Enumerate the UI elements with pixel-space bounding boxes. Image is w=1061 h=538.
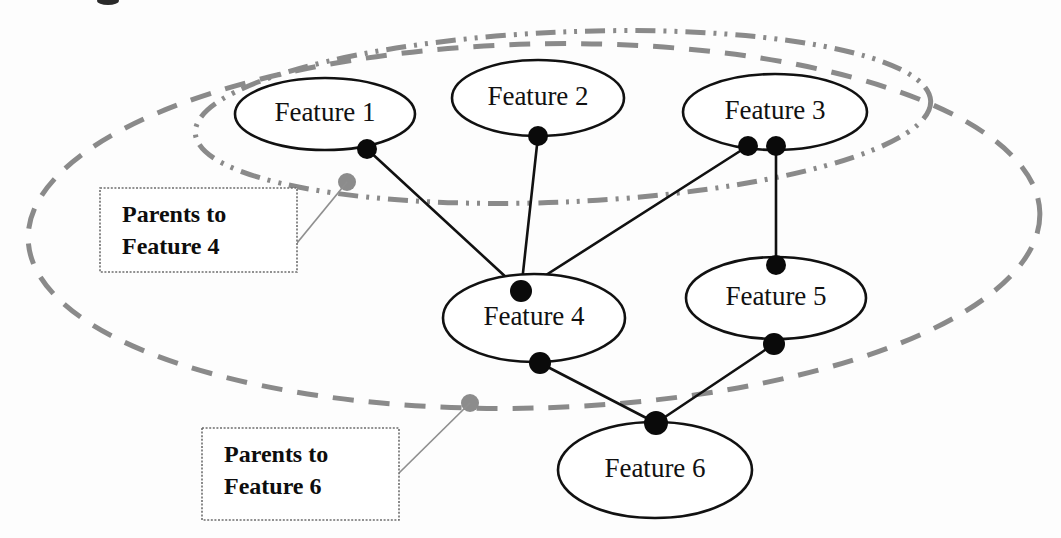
connector-dot-d-f4-out [529, 352, 551, 374]
leader-line-callout-parents-to-feature-6 [399, 403, 470, 473]
edge-f2-to-f4 [521, 136, 538, 291]
node-label-f6: Feature 6 [604, 453, 705, 483]
node-f2[interactable]: Feature 2 [452, 60, 624, 136]
edge-f1-to-f4 [367, 149, 521, 291]
node-label-f4: Feature 4 [483, 301, 585, 331]
node-label-f1: Feature 1 [274, 97, 375, 127]
callout-line2-callout-parents-to-feature-6: Feature 6 [224, 473, 322, 499]
callout-parents-to-feature-6: Parents toFeature 6 [202, 403, 470, 520]
callout-line1-callout-parents-to-feature-4: Parents to [122, 201, 226, 227]
connector-dot-d-f4-in [510, 280, 532, 302]
edge-f4-to-f6 [540, 363, 656, 423]
connector-dot-d-f3-out-a [738, 136, 758, 156]
connector-dot-d-f5-in [766, 255, 786, 275]
node-f6[interactable]: Feature 6 [558, 422, 752, 518]
callouts-layer: Parents toFeature 4Parents toFeature 6 [100, 182, 470, 520]
diagram-canvas: Feature 1Feature 2Feature 3Feature 4Feat… [0, 0, 1061, 538]
leader-line-callout-parents-to-feature-4 [297, 182, 347, 243]
callout-line1-callout-parents-to-feature-6: Parents to [224, 441, 328, 467]
callout-parents-to-feature-4: Parents toFeature 4 [100, 182, 347, 272]
node-f1[interactable]: Feature 1 [235, 78, 415, 150]
callout-line2-callout-parents-to-feature-4: Feature 4 [122, 233, 220, 259]
connector-dot-d-f5-out [763, 333, 785, 355]
node-label-f2: Feature 2 [487, 81, 588, 111]
connector-dot-d-f6-in [644, 411, 668, 435]
connector-dot-d-f3-out-b [766, 136, 786, 156]
node-label-f3: Feature 3 [724, 95, 825, 125]
node-label-f5: Feature 5 [725, 281, 826, 311]
connector-dot-d-f2-out [528, 126, 548, 146]
node-f4[interactable]: Feature 4 [443, 274, 625, 362]
crop-artifact-glyph [97, 0, 119, 5]
edge-f5-to-f6 [656, 344, 774, 423]
diagram-svg: Feature 1Feature 2Feature 3Feature 4Feat… [0, 0, 1061, 538]
connector-dot-d-f1-out [357, 139, 377, 159]
